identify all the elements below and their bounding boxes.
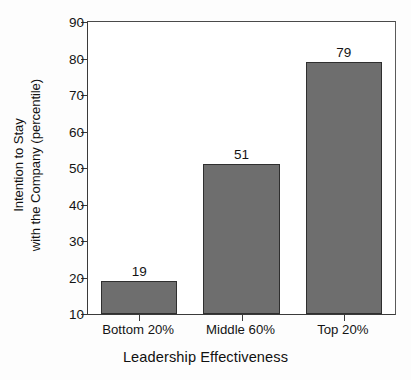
- x-tick-label: Bottom 20%: [102, 322, 174, 337]
- y-axis-title: Intention to Stay with the Company (perc…: [0, 0, 54, 330]
- x-tick-label: Top 20%: [317, 322, 368, 337]
- x-tick-mark: [344, 314, 345, 321]
- y-tick-label: 90: [69, 15, 84, 30]
- x-tick-mark: [242, 314, 243, 321]
- y-tick-label: 60: [69, 124, 84, 139]
- bar-value-label: 79: [336, 45, 351, 60]
- y-tick-label: 30: [69, 234, 84, 249]
- plot-area: 102030405060708090 195179: [87, 21, 396, 315]
- y-tick-label: 50: [69, 161, 84, 176]
- x-tick-label: Middle 60%: [206, 322, 275, 337]
- y-tick-label: 80: [69, 51, 84, 66]
- y-tick-label: 70: [69, 88, 84, 103]
- bar: 51: [203, 164, 279, 314]
- y-axis-title-line-2: with the Company (percentile): [27, 79, 44, 251]
- y-tick-label: 10: [69, 307, 84, 322]
- bar: 19: [101, 281, 177, 314]
- x-axis-title: Leadership Effectiveness: [0, 349, 411, 365]
- y-tick-label: 20: [69, 270, 84, 285]
- bar-value-label: 51: [234, 147, 249, 162]
- y-axis-title-line-1: Intention to Stay: [10, 79, 27, 251]
- y-tick-label: 40: [69, 197, 84, 212]
- bar: 79: [306, 62, 382, 314]
- bar-value-label: 19: [132, 264, 147, 279]
- x-tick-mark: [139, 314, 140, 321]
- chart-figure: Intention to Stay with the Company (perc…: [0, 0, 411, 380]
